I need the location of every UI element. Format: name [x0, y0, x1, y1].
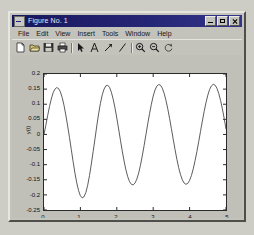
figure-window: Figure No. 1 File Edit View Insert Tools…: [8, 11, 246, 222]
menu-item-edit[interactable]: Edit: [33, 30, 52, 38]
menu-bar: File Edit View Insert Tools Window Help: [12, 28, 242, 39]
y-tick-label: 0.2: [12, 70, 40, 76]
menu-item-help[interactable]: Help: [154, 30, 175, 38]
insert-text-button[interactable]: [88, 41, 101, 54]
window-title: Figure No. 1: [28, 17, 68, 25]
menu-item-window[interactable]: Window: [122, 30, 154, 38]
plot-area[interactable]: [43, 73, 227, 211]
x-tick-label: 2: [107, 214, 125, 218]
menu-item-file[interactable]: File: [15, 30, 33, 38]
screenshot-root: Figure No. 1 File Edit View Insert Tools…: [0, 0, 254, 235]
window-controls: [205, 16, 240, 26]
y-tick-label: 0.15: [12, 85, 40, 91]
menu-item-insert[interactable]: Insert: [74, 30, 99, 38]
menu-item-view[interactable]: View: [52, 30, 74, 38]
y-axis-label: y(t): [25, 113, 31, 147]
toolbar: [12, 39, 242, 55]
save-figure-button[interactable]: [42, 41, 55, 54]
x-tick-label: 1: [70, 214, 88, 218]
zoom-in-button[interactable]: [134, 41, 147, 54]
print-figure-button[interactable]: [56, 41, 69, 54]
y-tick-label: 0.1: [12, 100, 40, 106]
figure-window-icon: [14, 16, 25, 27]
insert-arrow-button[interactable]: [102, 41, 115, 54]
title-bar[interactable]: Figure No. 1: [12, 15, 242, 27]
zoom-out-button[interactable]: [148, 41, 161, 54]
y-tick-label: -0.25: [12, 207, 40, 213]
figure-canvas: 0.2 0.15 0.1 0.05 0 -0.05 -0.1 -0.15 -0.…: [12, 55, 242, 218]
rotate-3d-button[interactable]: [162, 41, 175, 54]
minimize-button[interactable]: [205, 16, 216, 26]
maximize-button[interactable]: [217, 16, 228, 26]
y-tick-label: -0.15: [12, 176, 40, 182]
waveform-plot: [44, 74, 226, 210]
x-tick-label: 3: [144, 214, 162, 218]
y-tick-label: -0.2: [12, 192, 40, 198]
edit-plot-button[interactable]: [74, 41, 87, 54]
menu-item-tools[interactable]: Tools: [99, 30, 122, 38]
insert-line-button[interactable]: [116, 41, 129, 54]
open-file-button[interactable]: [28, 41, 41, 54]
new-figure-button[interactable]: [14, 41, 27, 54]
close-button[interactable]: [229, 16, 240, 26]
y-tick-label: -0.1: [12, 161, 40, 167]
x-tick-label: 0: [34, 214, 52, 218]
x-tick-label: 4: [181, 214, 199, 218]
x-tick-label: 5: [218, 214, 236, 218]
